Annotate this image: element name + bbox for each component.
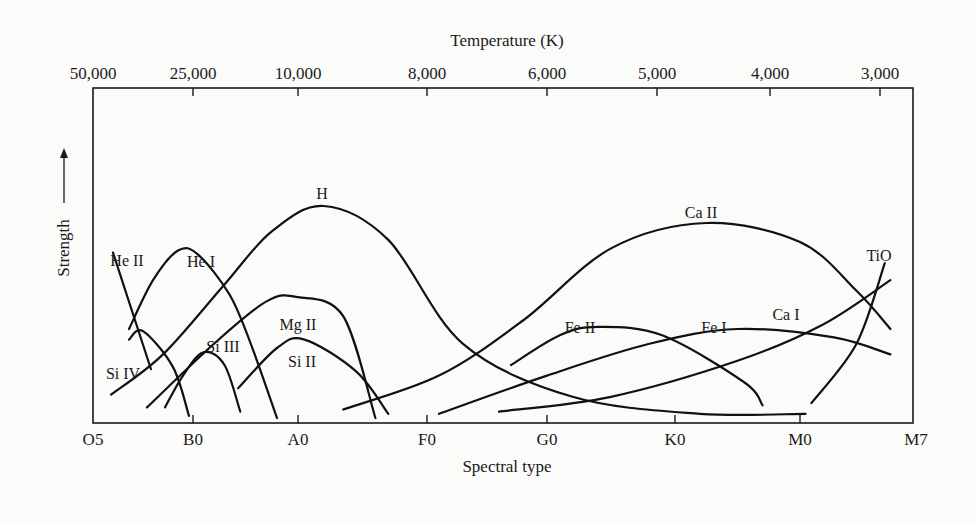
- bottom-tick-label: O5: [83, 430, 104, 449]
- label-si-iii: Si III: [206, 338, 239, 355]
- y-axis-title: Strength: [54, 219, 73, 277]
- bottom-axis-ticks: O5B0A0F0G0K0M0M7: [83, 430, 929, 449]
- bottom-tick-label: A0: [288, 430, 309, 449]
- label-fe-ii: Fe II: [565, 319, 596, 336]
- curve-h: [111, 206, 806, 415]
- plot-frame: [93, 88, 913, 423]
- label-mg-ii: Mg II: [280, 316, 317, 334]
- top-tick-label: 8,000: [408, 64, 446, 83]
- top-tick-label: 6,000: [528, 64, 566, 83]
- label-he-i: He I: [187, 253, 215, 270]
- bottom-tick-label: G0: [537, 430, 558, 449]
- curve-si-iii: [165, 352, 240, 412]
- spectral-line-strength-chart: Temperature (K) 50,00025,00010,0008,0006…: [0, 0, 976, 525]
- top-axis-title: Temperature (K): [450, 31, 564, 50]
- up-arrow-icon: [60, 148, 68, 158]
- bottom-tick-label: M7: [904, 430, 928, 449]
- top-tick-label: 25,000: [170, 64, 217, 83]
- bottom-axis-title: Spectral type: [462, 457, 551, 476]
- curve-ca-ii: [343, 223, 890, 410]
- label-tio: TiO: [866, 247, 891, 264]
- curve-he-ii: [113, 253, 151, 370]
- curve-mg-ii: [147, 295, 375, 418]
- top-axis-ticks: 50,00025,00010,0008,0006,0005,0004,0003,…: [70, 64, 900, 83]
- tick-marks: [193, 88, 880, 423]
- label-ca-ii: Ca II: [685, 204, 717, 221]
- label-si-iv: Si IV: [106, 365, 141, 382]
- bottom-tick-label: F0: [418, 430, 436, 449]
- top-tick-label: 50,000: [70, 64, 117, 83]
- curve-tio: [811, 263, 885, 403]
- bottom-tick-label: B0: [183, 430, 203, 449]
- top-tick-label: 4,000: [751, 64, 789, 83]
- y-axis-title-group: Strength: [54, 148, 73, 277]
- label-si-ii: Si II: [288, 353, 316, 370]
- bottom-tick-label: M0: [788, 430, 812, 449]
- series-labels: He IIHe ISi IVSi IIIHMg IISi IICa IIFe I…: [106, 185, 892, 382]
- top-tick-label: 3,000: [861, 64, 899, 83]
- label-he-ii: He II: [110, 252, 143, 269]
- bottom-tick-label: K0: [665, 430, 686, 449]
- top-tick-label: 10,000: [275, 64, 322, 83]
- label-h: H: [316, 185, 328, 202]
- label-ca-i: Ca I: [772, 306, 799, 323]
- curve-he-i: [129, 248, 277, 418]
- top-tick-label: 5,000: [638, 64, 676, 83]
- label-fe-i: Fe I: [701, 319, 726, 336]
